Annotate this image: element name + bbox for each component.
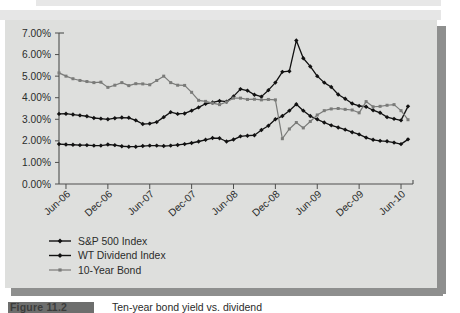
series-marker [127, 116, 131, 120]
scanned-page: 0.00%1.00%2.00%3.00%4.00%5.00%6.00%7.00%… [0, 0, 460, 313]
series-marker [357, 104, 361, 108]
legend-swatch-marker [58, 268, 61, 271]
series-marker [329, 123, 333, 127]
series-marker [64, 142, 68, 146]
series-marker [224, 139, 228, 143]
series-marker [295, 121, 298, 124]
x-axis-tick-label: Jun-07 [126, 188, 157, 217]
legend-label: S&P 500 Index [78, 236, 148, 247]
x-axis-tick-label: Jun-10 [377, 188, 408, 217]
series-marker [183, 84, 186, 87]
series-marker [217, 136, 221, 140]
series-marker [176, 84, 179, 87]
series-marker [162, 75, 165, 78]
series-marker [148, 121, 152, 125]
series-marker [400, 109, 403, 112]
series-marker [350, 130, 354, 134]
series-marker [358, 111, 361, 114]
page-top-artifact-upper [36, 0, 441, 6]
series-marker [106, 142, 110, 146]
series-line [59, 73, 408, 139]
series-marker [225, 101, 228, 104]
y-axis-tick-label: 2.00% [22, 135, 51, 146]
series-marker [78, 113, 82, 117]
legend-swatch-marker [58, 253, 63, 258]
y-axis-tick-label: 1.00% [22, 157, 51, 168]
series-marker [141, 82, 144, 85]
series-marker [71, 143, 75, 147]
series-marker [141, 144, 145, 148]
y-axis-tick-label: 4.00% [22, 92, 51, 103]
series-marker [92, 81, 95, 84]
series-marker [134, 144, 138, 148]
series-marker [379, 105, 382, 108]
series-marker [134, 118, 138, 122]
series-marker [323, 109, 326, 112]
series-marker [253, 98, 256, 101]
series-marker [71, 77, 74, 80]
series-marker [246, 98, 249, 101]
series-marker [392, 117, 396, 121]
page-top-artifact-lower [0, 10, 441, 20]
series-marker [64, 75, 67, 78]
series-marker [274, 98, 277, 101]
series-marker [260, 98, 263, 101]
series-marker [238, 134, 242, 138]
series-marker [134, 82, 137, 85]
series-marker [232, 97, 235, 100]
series-marker [336, 125, 340, 129]
series-marker [343, 127, 347, 131]
series-marker [315, 117, 319, 121]
series-marker [287, 69, 291, 73]
series-marker [210, 136, 214, 140]
series-marker [197, 99, 200, 102]
series-marker [57, 112, 61, 116]
series-marker [148, 143, 152, 147]
series-marker [357, 132, 361, 136]
series-marker [182, 142, 186, 146]
series-marker [120, 144, 124, 148]
series-marker [85, 143, 89, 147]
series-marker [175, 112, 179, 116]
series-marker [196, 139, 200, 143]
series-marker [392, 140, 396, 144]
series-marker [148, 83, 151, 86]
series-marker [71, 112, 75, 116]
series-marker [330, 107, 333, 110]
series-marker [351, 109, 354, 112]
series-marker [85, 114, 89, 118]
series-marker [294, 38, 298, 42]
y-axis-tick-label: 3.00% [22, 114, 51, 125]
x-axis-tick-label: Dec-08 [250, 188, 282, 218]
series-marker [113, 84, 116, 87]
series-marker [175, 143, 179, 147]
series-marker [245, 133, 249, 137]
x-axis-tick-label: Dec-07 [166, 188, 198, 218]
y-axis-tick-label: 0.00% [22, 179, 51, 190]
series-marker [106, 117, 110, 121]
x-axis-tick-label: Jun-06 [42, 188, 73, 217]
figure-panel: 0.00%1.00%2.00%3.00%4.00%5.00%6.00%7.00%… [5, 20, 437, 288]
series-marker [309, 120, 312, 123]
series-marker [386, 104, 389, 107]
x-axis-tick-label: Dec-09 [334, 188, 366, 218]
series-marker [204, 100, 207, 103]
series-marker [99, 116, 103, 120]
series-marker [371, 108, 375, 112]
figure-drop-shadow-right [437, 26, 446, 294]
figure-drop-shadow-bottom [11, 288, 443, 296]
series-marker [211, 102, 214, 105]
figure-number: Figure 11.2 [10, 301, 67, 313]
y-axis-tick-label: 5.00% [22, 71, 51, 82]
series-marker [78, 143, 82, 147]
series-marker [189, 141, 193, 145]
series-marker [344, 108, 347, 111]
series-marker [155, 143, 159, 147]
figure-caption-text: Ten-year bond yield vs. dividend [112, 301, 262, 313]
series-marker [406, 104, 410, 108]
series-marker [182, 111, 186, 115]
series-marker [162, 144, 166, 148]
series-marker [190, 91, 193, 94]
series-marker [371, 138, 375, 142]
series-marker [218, 103, 221, 106]
